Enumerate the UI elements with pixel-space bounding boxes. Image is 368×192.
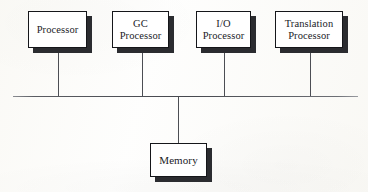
translation-processor-box[interactable]: Translation Processor [275, 11, 343, 48]
connector-translation-processor-to-bus [310, 48, 311, 97]
translation-processor-label: Translation Processor [282, 18, 337, 42]
connector-processor-to-bus [58, 48, 59, 97]
memory-label: Memory [156, 154, 200, 166]
io-processor-label: I/O Processor [200, 18, 248, 42]
connector-bus-to-memory [178, 97, 179, 143]
gc-processor-box[interactable]: GC Processor [112, 11, 169, 48]
processor-box[interactable]: Processor [28, 11, 87, 48]
block-diagram: Processor GC Processor I/O Processor Tra… [0, 0, 368, 192]
connector-io-processor-to-bus [224, 48, 225, 97]
processor-label: Processor [34, 24, 82, 36]
memory-box[interactable]: Memory [150, 143, 207, 177]
connector-gc-processor-to-bus [142, 48, 143, 97]
gc-processor-label: GC Processor [117, 18, 165, 42]
io-processor-box[interactable]: I/O Processor [196, 11, 251, 48]
system-bus-line [13, 96, 358, 97]
